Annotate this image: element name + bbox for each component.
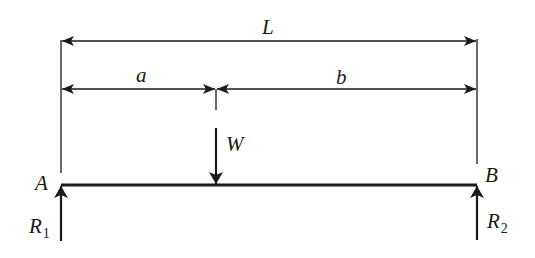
label-R2-main: R bbox=[486, 209, 500, 233]
label-R2: R2 bbox=[486, 209, 508, 236]
label-b: b bbox=[336, 65, 347, 89]
label-A: A bbox=[33, 171, 48, 195]
label-R1: R1 bbox=[28, 214, 50, 241]
label-B: B bbox=[485, 163, 498, 187]
beam-diagram: L a b W A B R1 R2 bbox=[0, 0, 535, 258]
label-R2-sub: 2 bbox=[501, 221, 508, 236]
label-R1-sub: 1 bbox=[43, 226, 50, 241]
label-a: a bbox=[136, 63, 147, 87]
label-L: L bbox=[261, 15, 274, 39]
label-W: W bbox=[226, 132, 246, 156]
label-R1-main: R bbox=[28, 214, 42, 238]
